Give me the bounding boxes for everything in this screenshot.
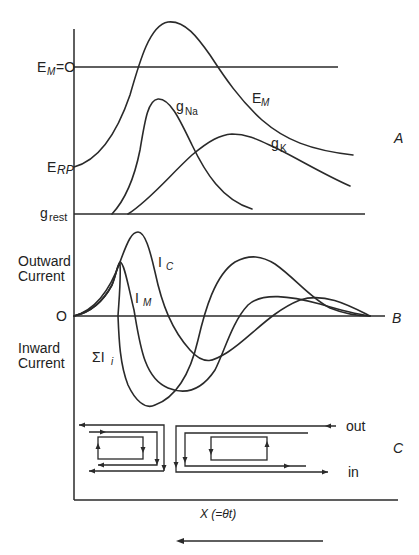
em-zero-label-sub: M [47,66,56,77]
right-inner-loop [211,437,267,460]
gk-curve-label-main: g [271,135,279,151]
ic-curve-label-sub: C [166,261,174,272]
gk-curve [128,134,350,214]
ic-curve-label-main: I [158,254,162,270]
inward-current-label: Inward Current [18,340,65,371]
ic-curve-label: I C [158,254,174,272]
em-curve [74,22,353,167]
in-label: in [348,464,359,480]
right-arrow-down-icon [174,462,179,468]
right-inner-arrow-up-icon [265,441,270,447]
panel-a: E M =O E RP g rest E M g Na g K A [37,22,403,223]
x-axis-label: X (=θt) [199,507,236,521]
right-arrow-down-2-icon [183,457,188,463]
panel-c: out in C [79,418,404,480]
erp-label-sub: RP [57,163,74,177]
em-zero-label: E M =O [37,59,75,77]
im-curve-label: I M [135,290,152,308]
em-curve-label-sub: M [261,97,270,108]
left-current-loops [79,423,167,474]
out-label: out [346,418,366,434]
right-arrow-right-icon [284,464,290,469]
right-inner-arrow-down-icon [209,449,214,455]
left-inner-loop [98,437,143,459]
erp-label-main: E [47,159,56,175]
left-arrow-right-icon [100,430,106,435]
left-arrow-left-icon [98,463,104,468]
gna-curve-label: g Na [176,98,198,117]
left-arrow-down-2-icon [155,459,160,465]
gna-curve-label-sub: Na [185,106,198,117]
inward-label-line2: Current [18,355,65,371]
panel-a-label: A [393,130,403,146]
left-inner-arrow-up-icon [96,443,101,449]
sum-ii-curve-label: ΣI i [92,349,114,367]
right-middle-loop [185,433,308,466]
ic-curve [74,232,370,360]
left-arrow-out-left-icon [79,423,85,428]
im-curve-label-sub: M [143,297,152,308]
right-arrow-in-right-icon [322,470,328,475]
sum-ii-curve-label-main: ΣI [92,349,105,365]
g-rest-label: g rest [40,205,67,223]
zero-current-label: O [56,308,67,324]
inward-label-line1: Inward [18,340,60,356]
action-potential-diagram: E M =O E RP g rest E M g Na g K A [0,0,419,555]
left-arrow-down-icon [162,465,167,471]
erp-label: E RP [47,159,74,177]
sum-ii-curve-label-sub: i [111,356,114,367]
propagation-arrow-icon [176,538,323,544]
right-arrow-out-left-icon [325,424,331,429]
sum-ii-curve [74,257,370,406]
right-current-loops [174,424,337,475]
outward-label-line2: Current [18,268,65,284]
em-zero-label-main: E [37,59,46,75]
gna-curve [112,99,252,214]
panel-b-label: B [392,310,401,326]
left-inner-arrow-down-icon [141,447,146,453]
im-curve-label-main: I [135,290,139,306]
panel-b: Outward Current O Inward Current I C I M… [18,232,401,406]
em-curve-label: E M [252,90,270,108]
gk-curve-label: g K [271,135,287,154]
em-zero-label-suffix: =O [56,59,75,75]
outward-label-line1: Outward [18,253,71,269]
g-rest-label-sub: rest [49,211,67,223]
gna-curve-label-main: g [176,98,184,114]
g-rest-label-main: g [40,205,48,221]
panel-c-label: C [393,440,404,456]
outward-current-label: Outward Current [18,253,71,284]
left-arrow-in-left-icon [89,469,95,474]
em-curve-label-main: E [252,90,261,106]
gk-curve-label-sub: K [280,143,287,154]
